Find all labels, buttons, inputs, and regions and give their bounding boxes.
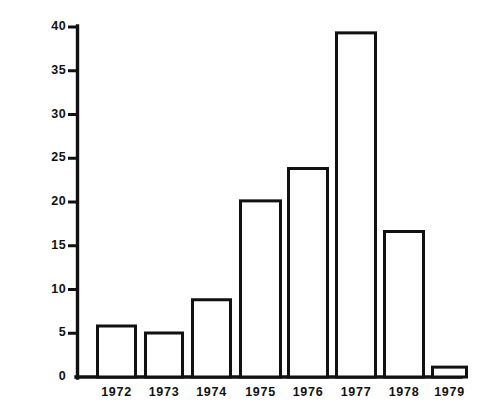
x-axis-tick-label: 1972 <box>101 386 132 399</box>
x-axis-tick-labels: 19721973197419751976197719781979 <box>0 0 477 416</box>
x-axis-tick-label: 1979 <box>434 386 465 399</box>
x-axis-tick-label: 1975 <box>245 386 276 399</box>
x-axis-tick-label: 1977 <box>341 386 372 399</box>
x-axis-tick-label: 1974 <box>196 386 227 399</box>
x-axis-tick-label: 1978 <box>389 386 420 399</box>
x-axis-tick-label: 1973 <box>149 386 180 399</box>
wolf-reports-bar-chart: Number of Wolf Reports 0510152025303540 … <box>0 0 477 416</box>
x-axis-tick-label: 1976 <box>293 386 324 399</box>
